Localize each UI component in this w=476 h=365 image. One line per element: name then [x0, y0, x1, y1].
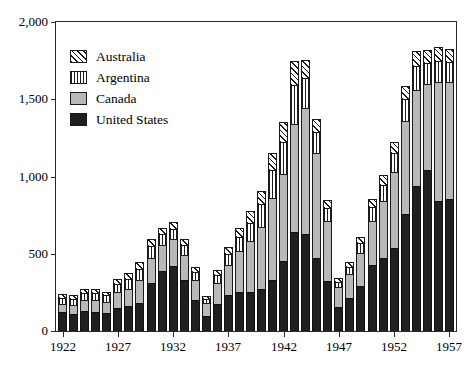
bar-segment	[147, 283, 156, 331]
diagonal-hatch-swatch	[70, 50, 87, 63]
bar-segment	[301, 78, 310, 108]
y-axis-tick-label: 1,500	[0, 92, 48, 105]
solid-dark-swatch	[70, 113, 87, 126]
bar-segment	[124, 306, 133, 331]
stacked-bar	[268, 22, 277, 331]
bar-segment	[224, 265, 233, 295]
bar-segment	[301, 108, 310, 235]
stacked-bar	[279, 22, 288, 331]
y-axis-tick-label: 0	[0, 324, 48, 337]
bar-segment	[180, 255, 189, 280]
stacked-bar	[434, 22, 443, 331]
y-axis-tick-mark	[51, 22, 56, 23]
bar-segment	[147, 246, 156, 258]
bar-segment	[257, 191, 266, 204]
bar-segment	[191, 280, 200, 300]
bar-segment	[246, 223, 255, 241]
stacked-bar	[445, 22, 454, 331]
x-axis-tick-label: 1927	[95, 340, 141, 354]
bar-segment	[180, 280, 189, 331]
bar-segment	[158, 271, 167, 331]
vertical-lines-swatch	[70, 71, 87, 84]
stacked-bar	[224, 22, 233, 331]
bar-segment	[356, 253, 365, 286]
bar-segment	[58, 312, 67, 331]
stacked-bar	[379, 22, 388, 331]
bar-segment	[379, 201, 388, 258]
stacked-bar	[191, 22, 200, 331]
bar-segment	[445, 82, 454, 199]
legend-item-label: Argentina	[96, 71, 150, 85]
stacked-bar	[180, 22, 189, 331]
bar-segment	[80, 311, 89, 331]
bar-segment	[169, 222, 178, 229]
x-axis-tick-mark	[228, 332, 229, 337]
bar-segment	[80, 300, 89, 311]
stacked-bar	[213, 22, 222, 331]
stacked-bar	[412, 22, 421, 331]
bar-segment	[191, 272, 200, 280]
bar-segment	[191, 300, 200, 331]
bar-segment	[345, 274, 354, 298]
bar-segment	[113, 308, 122, 331]
bar-segment	[113, 292, 122, 307]
bar-segment	[312, 258, 321, 331]
x-axis-tick-mark	[449, 332, 450, 337]
bar-segment	[80, 293, 89, 300]
chart-legend: AustraliaArgentinaCanadaUnited States	[70, 46, 168, 130]
bar-segment	[91, 293, 100, 300]
bar-segment	[235, 237, 244, 252]
bar-segment	[69, 314, 78, 331]
bar-segment	[390, 248, 399, 331]
bar-segment	[379, 175, 388, 185]
legend-item-argentina: Argentina	[70, 67, 168, 88]
bar-segment	[180, 245, 189, 254]
bar-segment	[423, 50, 432, 63]
bar-segment	[158, 234, 167, 244]
bar-segment	[246, 241, 255, 292]
bar-segment	[434, 61, 443, 83]
bar-segment	[412, 90, 421, 186]
bar-segment	[290, 124, 299, 232]
bar-segment	[290, 85, 299, 124]
bar-segment	[401, 99, 410, 121]
bar-segment	[290, 232, 299, 331]
bar-segment	[257, 289, 266, 331]
bar-segment	[279, 261, 288, 331]
bar-segment	[312, 119, 321, 132]
x-axis-tick-mark	[284, 332, 285, 337]
plot-frame-right	[456, 21, 457, 332]
y-axis-tick-mark	[51, 99, 56, 100]
bar-segment	[379, 258, 388, 331]
bar-segment	[334, 307, 343, 331]
stacked-bar	[58, 22, 67, 331]
bar-segment	[235, 292, 244, 331]
legend-item-label: Canada	[96, 92, 136, 106]
bar-segment	[356, 243, 365, 253]
x-axis-tick-mark	[339, 332, 340, 337]
bar-segment	[58, 304, 67, 312]
bar-segment	[213, 304, 222, 331]
bar-segment	[113, 284, 122, 292]
x-axis-tick-mark	[173, 332, 174, 337]
bar-segment	[423, 63, 432, 84]
x-axis-tick-label: 1952	[371, 340, 417, 354]
y-axis-tick-mark	[51, 331, 56, 332]
stacked-bar	[356, 22, 365, 331]
stacked-bar	[169, 22, 178, 331]
bar-segment	[356, 286, 365, 331]
bar-segment	[135, 303, 144, 331]
legend-item-australia: Australia	[70, 46, 168, 67]
bar-segment	[290, 61, 299, 85]
bar-segment	[412, 66, 421, 90]
bar-segment	[224, 295, 233, 331]
bar-segment	[224, 247, 233, 254]
bar-segment	[69, 305, 78, 314]
legend-item-label: Australia	[96, 50, 146, 64]
bar-segment	[323, 281, 332, 331]
stacked-bar	[235, 22, 244, 331]
bar-segment	[401, 86, 410, 99]
bar-segment	[257, 227, 266, 290]
stacked-bar	[368, 22, 377, 331]
y-axis-tick-label: 2,000	[0, 15, 48, 28]
